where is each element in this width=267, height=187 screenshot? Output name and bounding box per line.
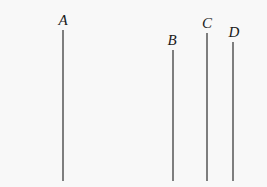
line-segment-figure: ABCD bbox=[0, 0, 267, 187]
figure-canvas bbox=[0, 0, 267, 187]
segment-label-b: B bbox=[167, 33, 176, 48]
segment-label-a: A bbox=[58, 13, 67, 28]
segment-label-c: C bbox=[202, 16, 212, 31]
figure-background bbox=[0, 0, 267, 187]
segment-label-d: D bbox=[229, 25, 240, 40]
